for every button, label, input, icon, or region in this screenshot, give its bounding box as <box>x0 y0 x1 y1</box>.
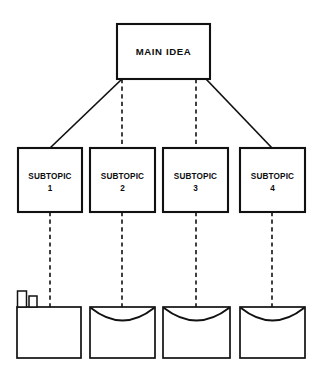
subtopic-node-1[interactable]: SUBTOPIC 1 <box>18 148 82 212</box>
connector-main-to-subtopic-1 <box>50 79 122 148</box>
subtopic-3-label-line1: SUBTOPIC <box>174 172 217 181</box>
main-idea-node[interactable]: MAIN IDEA <box>117 24 210 79</box>
subtopic-3-label-line2: 3 <box>193 184 198 193</box>
connector-main-to-subtopic-4 <box>206 79 272 148</box>
subtopic-node-3[interactable]: SUBTOPIC 3 <box>163 148 228 212</box>
concept-map-diagram: MAIN IDEA SUBTOPIC 1 SUBTOPIC 2 SUBTOPIC… <box>0 0 322 378</box>
main-idea-label: MAIN IDEA <box>136 46 192 57</box>
container-1-box <box>17 307 81 358</box>
container-node-3[interactable] <box>163 307 230 358</box>
connector-group <box>50 79 272 307</box>
container-node-4[interactable] <box>240 307 305 358</box>
subtopic-1-label-line2: 1 <box>48 184 53 193</box>
subtopic-4-label-line2: 4 <box>270 184 275 193</box>
subtopic-node-4[interactable]: SUBTOPIC 4 <box>240 148 305 212</box>
container-node-1[interactable] <box>17 291 81 358</box>
subtopic-2-label-line2: 2 <box>120 184 125 193</box>
subtopic-4-label-line1: SUBTOPIC <box>251 172 294 181</box>
diagram-canvas: MAIN IDEA SUBTOPIC 1 SUBTOPIC 2 SUBTOPIC… <box>0 0 322 378</box>
container-node-2[interactable] <box>90 307 155 358</box>
book-icon-right <box>29 296 37 307</box>
book-icon-left <box>18 291 27 307</box>
subtopic-1-label-line1: SUBTOPIC <box>28 172 71 181</box>
subtopic-2-label-line1: SUBTOPIC <box>101 172 144 181</box>
subtopic-node-2[interactable]: SUBTOPIC 2 <box>90 148 155 212</box>
